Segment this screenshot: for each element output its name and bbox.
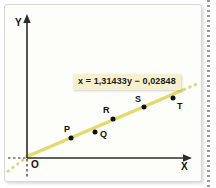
figure-page: P Q R S T O Y X x = 1,31433y − 0,02848 — [0, 0, 216, 188]
data-point-r — [111, 117, 116, 122]
data-point-label-p: P — [64, 125, 70, 134]
y-axis-label: Y — [15, 18, 22, 28]
scatter-plot-figure: P Q R S T O Y X x = 1,31433y − 0,02848 — [4, 4, 202, 182]
data-point-label-s: S — [135, 95, 141, 104]
fit-line-dashed-extension-upper — [183, 84, 197, 90]
data-point-label-t: T — [177, 102, 183, 111]
regression-fit-line — [26, 90, 183, 157]
plot-canvas — [5, 5, 201, 181]
page-edge-dotted-rule — [207, 0, 210, 188]
regression-equation-callout: x = 1,31433y − 0,02848 — [73, 74, 181, 90]
data-point-q — [93, 130, 98, 135]
fit-line-dashed-extension-lower — [7, 157, 27, 172]
x-axis-label: X — [181, 162, 188, 172]
data-point-label-r: R — [103, 106, 110, 115]
data-point-label-q: Q — [100, 130, 107, 139]
data-point-t — [171, 96, 176, 101]
data-point-s — [142, 105, 147, 110]
y-axis-arrowhead — [23, 14, 30, 23]
origin-label: O — [31, 160, 39, 170]
data-point-p — [69, 136, 74, 141]
